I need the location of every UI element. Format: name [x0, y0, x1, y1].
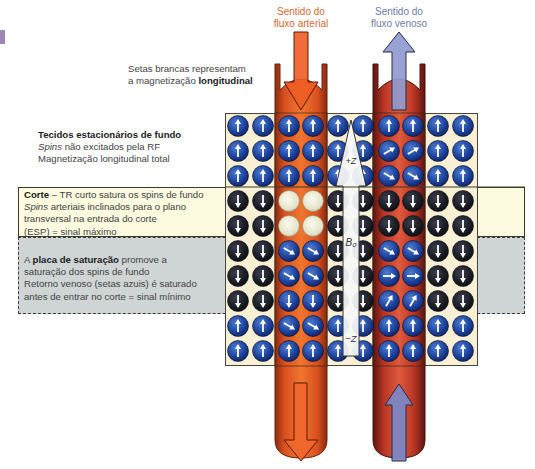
spin-icon	[228, 116, 249, 137]
spin-icon	[428, 191, 449, 212]
spin-icon	[379, 316, 400, 337]
spin-icon	[303, 291, 324, 312]
b0-label: B₀	[340, 237, 362, 248]
spin-icon	[279, 291, 300, 312]
spin-icon	[403, 291, 424, 312]
spin-icon	[403, 341, 424, 362]
spin-icon	[253, 341, 274, 362]
spin-icon	[428, 341, 449, 362]
spin-icon	[403, 241, 424, 262]
spin-icon	[253, 316, 274, 337]
spin-icon	[453, 241, 474, 262]
spin-icon	[379, 116, 400, 137]
spin-icon	[328, 116, 349, 137]
spin-icon	[228, 166, 249, 187]
spin-icon	[379, 241, 400, 262]
spin-icon	[253, 191, 274, 212]
spin-icon	[228, 316, 249, 337]
spin-icon	[279, 216, 300, 237]
spin-icon	[228, 291, 249, 312]
spin-icon	[403, 166, 424, 187]
spin-icon	[353, 116, 374, 137]
spin-icon	[228, 241, 249, 262]
spin-icon	[453, 316, 474, 337]
spin-icon	[428, 241, 449, 262]
spin-icon	[453, 141, 474, 162]
spin-icon	[253, 116, 274, 137]
spin-icon	[279, 316, 300, 337]
spin-icon	[453, 341, 474, 362]
spin-icon	[303, 341, 324, 362]
spin-icon	[428, 316, 449, 337]
spin-icon	[453, 191, 474, 212]
spin-icon	[403, 316, 424, 337]
spin-icon	[253, 141, 274, 162]
spin-icon	[453, 266, 474, 287]
spin-icon	[303, 166, 324, 187]
spin-icon	[403, 116, 424, 137]
spin-icon	[279, 266, 300, 287]
spin-icon	[303, 191, 324, 212]
spin-icon	[253, 216, 274, 237]
spin-icon	[228, 341, 249, 362]
spin-icon	[379, 216, 400, 237]
spin-icon	[403, 141, 424, 162]
spin-icon	[428, 166, 449, 187]
spin-icon	[303, 266, 324, 287]
spin-icon	[453, 291, 474, 312]
spin-icon	[453, 216, 474, 237]
spin-icon	[379, 341, 400, 362]
spin-icon	[228, 191, 249, 212]
spin-icon	[253, 241, 274, 262]
spin-icon	[279, 241, 300, 262]
spin-icon	[253, 266, 274, 287]
spin-icon	[403, 266, 424, 287]
spin-icon	[279, 166, 300, 187]
spin-icon	[303, 141, 324, 162]
spin-icon	[228, 216, 249, 237]
spin-icon	[279, 116, 300, 137]
spin-icon	[428, 266, 449, 287]
spin-icon	[428, 116, 449, 137]
spin-icon	[379, 266, 400, 287]
spin-icon	[279, 141, 300, 162]
flow-diagram	[0, 0, 535, 469]
spin-icon	[428, 216, 449, 237]
spin-icon	[253, 166, 274, 187]
spin-icon	[279, 191, 300, 212]
spin-icon	[303, 241, 324, 262]
spin-icon	[279, 341, 300, 362]
minus-z-label: −Z	[340, 333, 362, 344]
spin-icon	[379, 141, 400, 162]
spin-icon	[379, 291, 400, 312]
spin-icon	[453, 166, 474, 187]
spin-icon	[403, 191, 424, 212]
spin-icon	[428, 141, 449, 162]
spin-icon	[303, 216, 324, 237]
spin-icon	[403, 216, 424, 237]
spin-icon	[228, 266, 249, 287]
spin-icon	[428, 291, 449, 312]
plus-z-label: +Z	[340, 156, 362, 166]
spin-icon	[303, 116, 324, 137]
spin-icon	[253, 291, 274, 312]
spin-icon	[453, 116, 474, 137]
spin-icon	[379, 191, 400, 212]
spin-icon	[228, 141, 249, 162]
spin-icon	[379, 166, 400, 187]
spin-icon	[303, 316, 324, 337]
